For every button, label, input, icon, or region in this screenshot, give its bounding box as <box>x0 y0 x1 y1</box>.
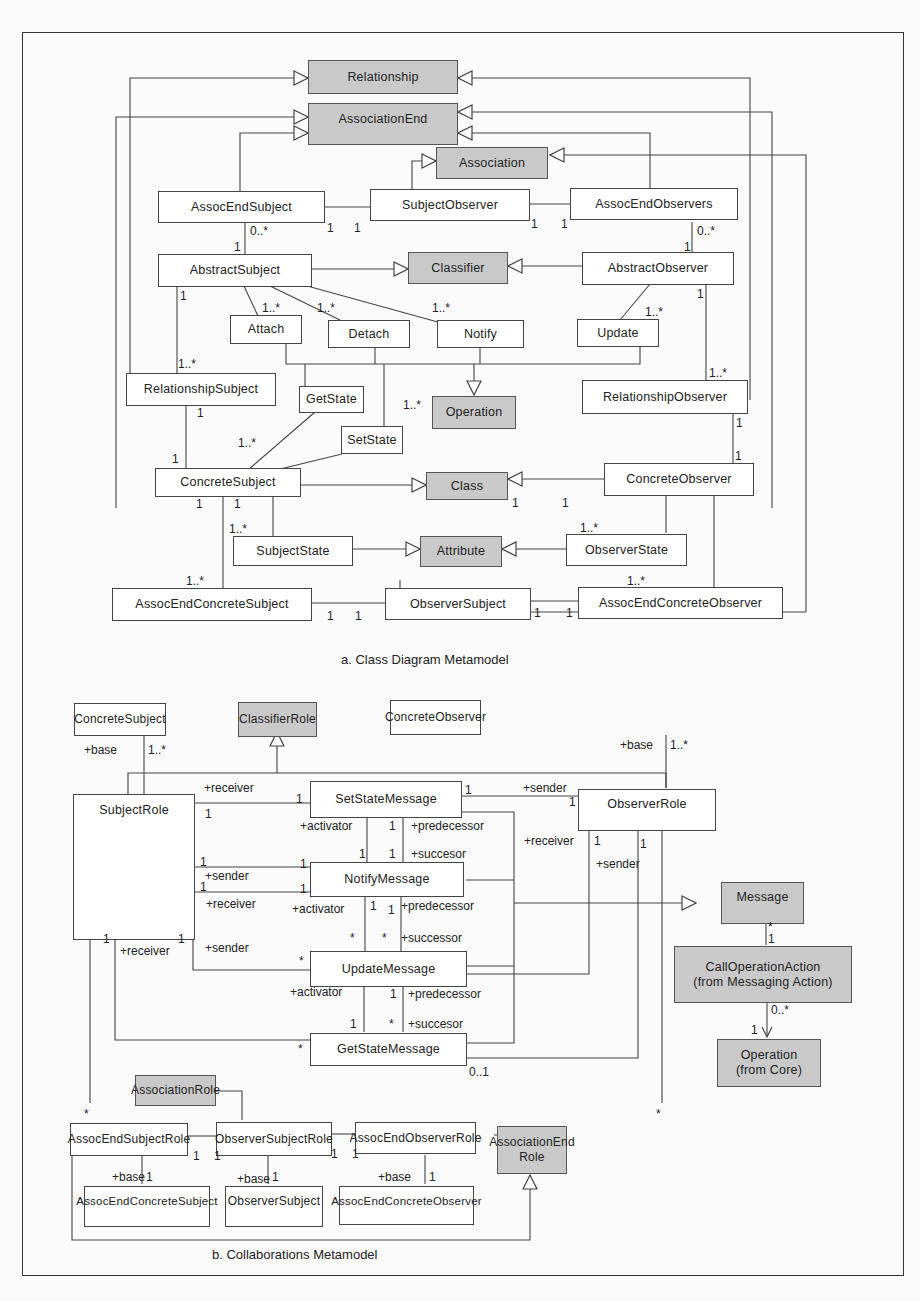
class-assoc-end-subject: AssocEndSubject <box>158 191 325 223</box>
mult: 1 <box>214 1150 221 1163</box>
mult: 1 <box>561 218 568 231</box>
mult: 1 <box>296 793 303 806</box>
class-set-state: SetState <box>341 426 403 454</box>
mult: 1 <box>272 1171 279 1184</box>
mult: 1 <box>331 1148 338 1161</box>
role-sender: +sender <box>205 870 249 883</box>
mult: 1 <box>180 290 187 303</box>
metaclass-relationship: Relationship <box>308 60 458 94</box>
mult: * <box>389 1018 394 1031</box>
class-assoc-end-subject-role: AssocEndSubjectRole <box>70 1123 188 1156</box>
class-set-state-message: SetStateMessage <box>310 781 462 818</box>
class-assoc-end-concrete-observer-b: AssocEndConcreteObserver <box>339 1186 474 1225</box>
mult: 1 <box>178 933 185 946</box>
class-assoc-end-concrete-subject-b: AssocEndConcreteSubject <box>84 1186 210 1227</box>
metaclass-classifier: Classifier <box>408 252 508 284</box>
mult: 1 <box>352 1148 359 1161</box>
mult: 1 <box>594 835 601 848</box>
mult: 1 <box>205 808 212 821</box>
class-get-state: GetState <box>299 386 364 413</box>
mult: * <box>382 932 387 945</box>
mult: 1 <box>465 784 472 797</box>
mult: * <box>656 1108 661 1121</box>
mult: 1 <box>359 848 366 861</box>
caption-class-diagram: a. Class Diagram Metamodel <box>341 652 509 667</box>
caption-collaborations: b. Collaborations Metamodel <box>212 1247 377 1262</box>
mult: 1 <box>388 904 395 917</box>
metaclass-operation-core: Operation(from Core) <box>717 1039 821 1087</box>
mult: 1 <box>389 820 396 833</box>
class-get-state-message: GetStateMessage <box>310 1033 467 1066</box>
class-assoc-end-concrete-observer: AssocEndConcreteObserver <box>578 587 783 619</box>
mult: 0..1 <box>469 1066 489 1079</box>
mult: 1 <box>197 407 204 420</box>
mult: * <box>84 1108 89 1121</box>
role-activator: +activator <box>292 903 344 916</box>
role-receiver: +receiver <box>204 782 254 795</box>
class-attach: Attach <box>230 315 302 344</box>
class-subject-observer: SubjectObserver <box>370 189 530 221</box>
class-notify: Notify <box>437 320 524 348</box>
mult: 1 <box>200 881 207 894</box>
mult: 1 <box>355 610 362 623</box>
metaclass-attribute: Attribute <box>420 536 502 567</box>
class-subject-state: SubjectState <box>233 536 353 566</box>
mult: 1 <box>566 607 573 620</box>
mult: 1..* <box>403 399 421 412</box>
mult: 1 <box>327 222 334 235</box>
mult: 1 <box>751 1024 758 1037</box>
role-receiver: +receiver <box>120 945 170 958</box>
class-observer-state: ObserverState <box>566 534 687 566</box>
class-assoc-end-observers: AssocEndObservers <box>570 188 738 220</box>
metaclass-association: Association <box>436 147 548 179</box>
mult: 0..* <box>771 1004 789 1017</box>
mult: * <box>350 932 355 945</box>
role-base: +base <box>378 1171 411 1184</box>
metaclass-call-operation-action: CallOperationAction(from Messaging Actio… <box>674 946 852 1003</box>
class-relationship-observer: RelationshipObserver <box>582 380 748 414</box>
class-abstract-observer: AbstractObserver <box>582 252 734 285</box>
mult: 1..* <box>709 367 727 380</box>
role-base: +base <box>620 739 653 752</box>
class-subject-role: SubjectRole <box>73 794 195 940</box>
metaclass-operation: Operation <box>432 396 516 429</box>
mult: 1 <box>562 497 569 510</box>
mult: 1..* <box>317 302 335 315</box>
role-sender: +sender <box>596 858 640 871</box>
metaclass-message: Message <box>721 882 804 924</box>
mult: 1..* <box>148 744 166 757</box>
class-assoc-end-concrete-subject: AssocEndConcreteSubject <box>112 588 312 621</box>
mult: 1 <box>172 453 179 466</box>
class-update: Update <box>577 319 659 347</box>
mult: 1 <box>390 988 397 1001</box>
mult: 1 <box>350 1018 357 1031</box>
class-observer-role: ObserverRole <box>578 789 716 831</box>
mult: 1 <box>768 933 775 946</box>
class-relationship-subject: RelationshipSubject <box>126 373 276 406</box>
class-concrete-observer: ConcreteObserver <box>604 463 754 496</box>
mult: 1 <box>429 1171 436 1184</box>
class-detach: Detach <box>328 320 410 348</box>
mult: 1..* <box>178 358 196 371</box>
mult: 1 <box>684 241 691 254</box>
mult: 1 <box>697 288 704 301</box>
mult: 1..* <box>262 302 280 315</box>
mult: 1 <box>640 838 647 851</box>
class-observer-subject-b: ObserverSubject <box>225 1186 323 1227</box>
mult: 1..* <box>627 575 645 588</box>
mult: 1 <box>300 858 307 871</box>
mult: 1 <box>354 222 361 235</box>
class-observer-subject: ObserverSubject <box>385 588 531 620</box>
mult: 1..* <box>645 306 663 319</box>
role-receiver: +receiver <box>206 898 256 911</box>
class-assoc-end-observer-role: AssocEndObserverRole <box>355 1122 476 1154</box>
role-predecessor: +predecessor <box>408 988 481 1001</box>
metaclass-association-role: AssociationRole <box>135 1075 216 1106</box>
class-abstract-subject: AbstractSubject <box>158 254 312 287</box>
class-concrete-subject-b: ConcreteSubject <box>74 703 166 736</box>
role-receiver: +receiver <box>524 835 574 848</box>
mult: 1..* <box>670 739 688 752</box>
role-succesor: +succesor <box>411 848 466 861</box>
mult: 1 <box>196 498 203 511</box>
mult: 0..* <box>697 225 715 238</box>
